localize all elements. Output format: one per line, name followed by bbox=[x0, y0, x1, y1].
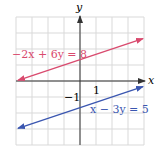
line-2-label: x − 3y = 5 bbox=[90, 103, 149, 116]
line-1-label: −2x + 6y = 8 bbox=[12, 48, 87, 61]
x-axis-label: x bbox=[148, 74, 155, 87]
graph: x y 1 −1 −2x + 6y = 8 x − 3y = 5 bbox=[0, 0, 163, 152]
y-axis-label: y bbox=[75, 1, 83, 14]
y-tick-label: −1 bbox=[64, 91, 80, 104]
x-tick-label: 1 bbox=[93, 84, 100, 97]
